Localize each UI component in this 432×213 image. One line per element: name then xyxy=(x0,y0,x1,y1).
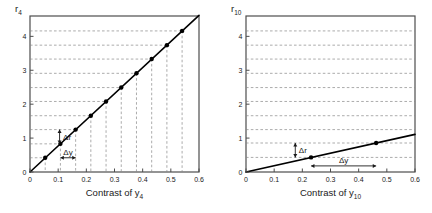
x-tick-label: 0.2 xyxy=(297,176,307,183)
y-axis-label: r4 xyxy=(15,3,22,16)
annotation-label: Δr xyxy=(63,133,71,142)
data-point xyxy=(119,85,123,89)
annotation-label: Δr xyxy=(299,146,307,155)
annotation-delta-y: Δy xyxy=(311,156,376,168)
y-tick-label: 2 xyxy=(239,101,243,108)
y-axis-label: r10 xyxy=(231,3,242,16)
data-point xyxy=(180,29,184,33)
annotation-label: Δy xyxy=(339,156,348,165)
plot-left: 00.10.20.30.40.50.601234r4Contrast of y4… xyxy=(0,0,216,213)
data-point xyxy=(43,156,47,160)
arrow-head-down xyxy=(293,154,297,157)
chart-panel-right: 00.10.20.30.40.50.601234r10Contrast of y… xyxy=(216,0,432,213)
data-point xyxy=(89,114,93,118)
data-point xyxy=(309,155,313,159)
annotation-delta-r: Δr xyxy=(58,130,72,144)
plot-right: 00.10.20.30.40.50.601234r10Contrast of y… xyxy=(216,0,432,213)
y-tick-label: 2 xyxy=(23,101,27,108)
chart-panel-left: 00.10.20.30.40.50.601234r4Contrast of y4… xyxy=(0,0,216,213)
x-tick-label: 0.2 xyxy=(81,176,91,183)
annotation-label: Δy xyxy=(63,148,72,157)
arrow-head-right xyxy=(373,164,376,168)
data-point xyxy=(374,141,378,145)
x-tick-label: 0.3 xyxy=(326,176,336,183)
y-tick-label: 4 xyxy=(239,33,243,40)
arrow-head-right xyxy=(72,156,75,160)
y-tick-label: 0 xyxy=(23,169,27,176)
y-tick-label: 4 xyxy=(23,33,27,40)
arrow-head-up xyxy=(293,143,297,146)
y-tick-label: 0 xyxy=(239,169,243,176)
data-point xyxy=(165,43,169,47)
data-line xyxy=(246,134,415,172)
data-point xyxy=(104,99,108,103)
x-tick-label: 0.5 xyxy=(166,176,176,183)
annotation-delta-r: Δr xyxy=(293,143,307,157)
data-point xyxy=(73,127,77,131)
x-tick-label: 0.1 xyxy=(269,176,279,183)
data-line xyxy=(30,15,199,172)
x-axis-title: Contrast of y4 xyxy=(86,187,144,200)
y-tick-label: 3 xyxy=(239,67,243,74)
y-tick-label: 3 xyxy=(23,67,27,74)
arrow-head-left xyxy=(311,164,314,168)
figure-container: 00.10.20.30.40.50.601234r4Contrast of y4… xyxy=(0,0,432,213)
plot-frame xyxy=(246,16,415,172)
arrow-head-up xyxy=(58,130,62,133)
x-tick-label: 0 xyxy=(244,176,248,183)
x-tick-label: 0.6 xyxy=(410,176,420,183)
data-point xyxy=(134,71,138,75)
y-tick-label: 1 xyxy=(239,135,243,142)
x-tick-label: 0.4 xyxy=(354,176,364,183)
annotation-delta-y: Δy xyxy=(60,148,75,160)
x-axis-title: Contrast of y10 xyxy=(300,187,361,200)
x-tick-label: 0 xyxy=(28,176,32,183)
data-point xyxy=(149,57,153,61)
x-tick-label: 0.4 xyxy=(138,176,148,183)
x-tick-label: 0.6 xyxy=(194,176,204,183)
x-tick-label: 0.3 xyxy=(110,176,120,183)
y-tick-label: 1 xyxy=(23,135,27,142)
x-tick-label: 0.1 xyxy=(53,176,63,183)
x-tick-label: 0.5 xyxy=(382,176,392,183)
